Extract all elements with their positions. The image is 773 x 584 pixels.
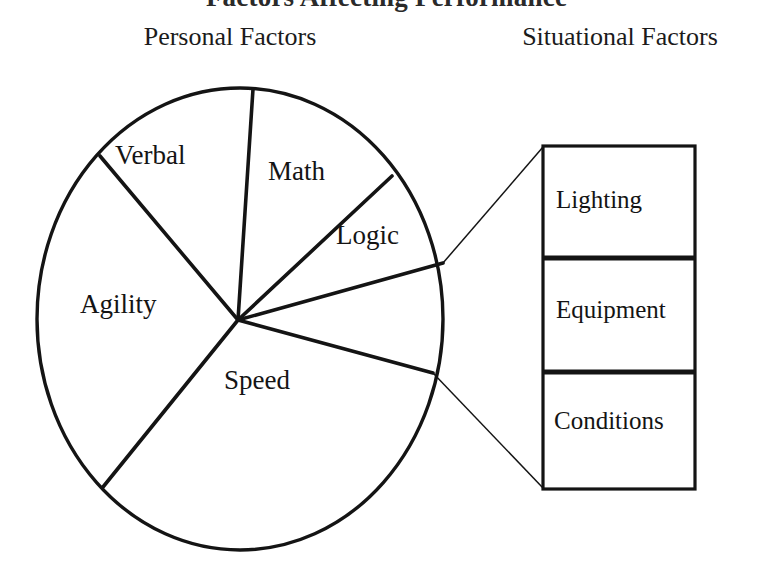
callout-line-top: [443, 147, 543, 263]
figure-canvas: Factors Affecting Performance Personal F…: [0, 0, 773, 584]
pie-label-agility: Agility: [80, 291, 157, 318]
pie-label-logic: Logic: [336, 222, 399, 249]
pie-label-verbal: Verbal: [115, 142, 185, 169]
box-label-lighting: Lighting: [556, 187, 642, 212]
pie-label-speed: Speed: [224, 367, 290, 394]
box-label-equipment: Equipment: [556, 297, 666, 322]
box-label-conditions: Conditions: [554, 408, 664, 433]
callout-line-bottom: [433, 373, 543, 488]
pie-label-math: Math: [268, 158, 325, 185]
